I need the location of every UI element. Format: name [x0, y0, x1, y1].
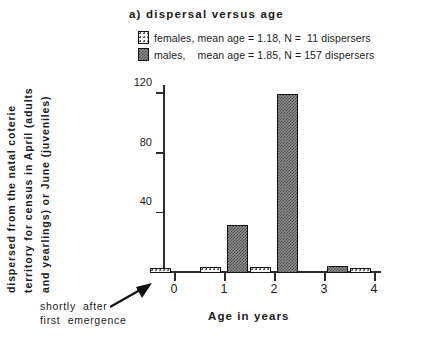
plot-area: 4080120 01234	[163, 85, 381, 273]
x-tick-0	[174, 273, 176, 281]
x-tick-label-2: 2	[271, 282, 278, 296]
bar-female-age-0	[150, 268, 171, 273]
x-tick-label-3: 3	[321, 282, 328, 296]
bar-male-age-3	[327, 266, 348, 273]
legend-label-females: females, mean age = 1.18, N = 11 dispers…	[154, 32, 371, 44]
x-axis-line	[163, 271, 381, 273]
bar-female-age-1	[200, 267, 221, 273]
y-tick-80	[156, 152, 163, 154]
y-tick-120	[156, 92, 163, 94]
x-tick-label-4: 4	[371, 282, 378, 296]
annotation-line-2: first emergence	[40, 314, 126, 326]
x-tick-3	[324, 273, 326, 281]
y-axis-line	[163, 85, 165, 273]
chart-legend: females, mean age = 1.18, N = 11 dispers…	[138, 30, 374, 64]
x-tick-4	[374, 273, 376, 281]
y-tick-label-120: 120	[134, 76, 152, 88]
bar-male-age-2	[277, 94, 298, 273]
x-tick-label-0: 0	[171, 282, 178, 296]
legend-label-males: males, mean age = 1.85, N = 157 disperse…	[154, 49, 374, 61]
x-tick-label-1: 1	[221, 282, 228, 296]
bar-female-age-2	[250, 267, 271, 273]
bar-female-age-4	[350, 268, 371, 273]
x-axis-title: Age in years	[208, 310, 290, 322]
page-title: a) dispersal versus age	[129, 8, 284, 20]
annotation-text: shortly afterfirst emergence	[40, 300, 126, 327]
y-axis-title-line-2: dispersed from the natal coterie	[5, 105, 17, 293]
legend-item-males: males, mean age = 1.85, N = 157 disperse…	[138, 47, 374, 62]
y-axis-title-line-4: and yearlings) or June (juveniles)	[39, 96, 51, 293]
y-tick-label-40: 40	[140, 195, 152, 207]
x-tick-2	[274, 273, 276, 281]
x-tick-1	[224, 273, 226, 281]
y-tick-label-80: 80	[140, 136, 152, 148]
female-swatch-icon	[138, 31, 149, 44]
annotation-line-1: shortly after	[40, 300, 108, 312]
y-axis-title: Number of individuals that haddispersed …	[0, 48, 105, 293]
legend-item-females: females, mean age = 1.18, N = 11 dispers…	[138, 30, 374, 45]
y-tick-40	[156, 212, 163, 214]
y-axis-title-line-3: territory for census in April (adults	[22, 87, 34, 293]
bar-male-age-1	[227, 225, 248, 273]
male-swatch-icon	[138, 48, 149, 61]
